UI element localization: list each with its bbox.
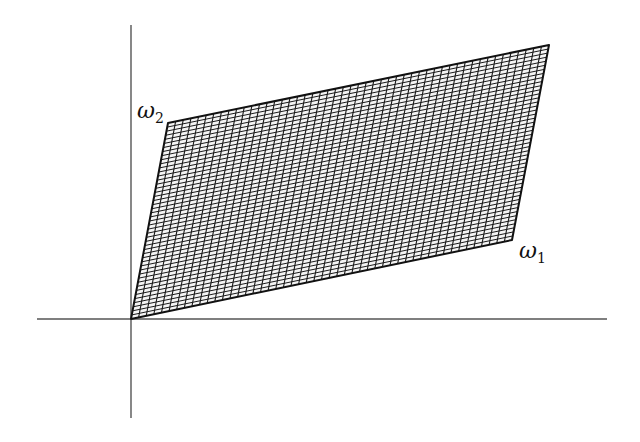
omega1-label: ω1 <box>519 240 546 265</box>
lattice-diagram <box>0 0 640 442</box>
omega2-label: ω2 <box>137 100 164 125</box>
omega1-symbol: ω <box>519 238 537 263</box>
omega1-subscript: 1 <box>537 250 546 266</box>
omega2-subscript: 2 <box>155 110 164 126</box>
omega2-symbol: ω <box>137 98 155 123</box>
